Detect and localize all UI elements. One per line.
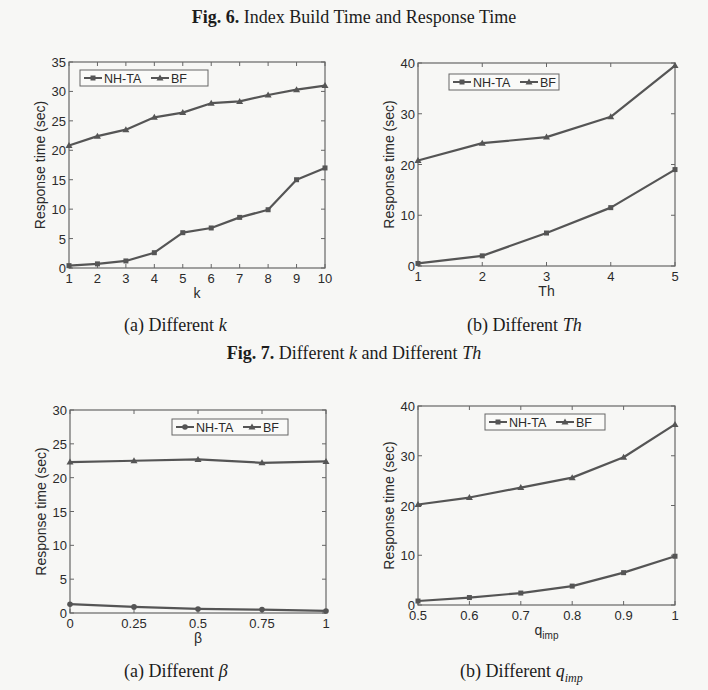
circle-marker-icon <box>195 606 201 612</box>
square-marker-icon <box>266 207 271 212</box>
square-marker-icon <box>180 230 185 235</box>
chart-different-beta: 05101520253000.250.50.751βResponse time … <box>33 403 330 646</box>
x-tick-label: 4 <box>607 269 614 284</box>
square-marker-icon <box>480 253 485 258</box>
series-line-bf <box>69 86 325 146</box>
x-axis-label: qimp <box>535 622 559 641</box>
legend-entry-label: NH-TA <box>196 421 234 435</box>
chart-legend: NH-TABF <box>449 74 559 90</box>
y-axis-label: Response time (sec) <box>32 101 48 229</box>
legend-entry-label: NH-TA <box>473 76 511 90</box>
x-tick-label: 0.6 <box>460 608 478 623</box>
x-tick-label: 0.9 <box>615 608 633 623</box>
chart-legend: NH-TABF <box>172 419 288 435</box>
square-marker-icon <box>152 250 157 255</box>
chart-legend: NH-TABF <box>485 414 605 430</box>
subcaption-text: (b) Different <box>460 661 556 681</box>
circle-marker-icon <box>259 607 265 613</box>
y-tick-label: 10 <box>53 538 67 553</box>
fig7-title-part: Different <box>279 343 349 363</box>
legend-entry-label: BF <box>540 76 556 90</box>
x-tick-label: 10 <box>318 271 332 286</box>
legend-entry-label: NH-TA <box>104 72 142 86</box>
series-line-bf <box>418 424 675 504</box>
square-marker-icon <box>67 263 72 268</box>
plot-area-frame <box>418 406 675 605</box>
y-tick-label: 40 <box>401 399 415 414</box>
y-tick-label: 5 <box>60 572 67 587</box>
circle-marker-icon <box>182 424 188 430</box>
x-tick-label: 6 <box>208 271 215 286</box>
legend-entry-label: NH-TA <box>509 416 547 430</box>
fig7-title-var-th: Th <box>462 343 481 363</box>
x-tick-label: 0.7 <box>512 608 530 623</box>
x-tick-label: 7 <box>236 271 243 286</box>
x-tick-label: 5 <box>671 269 678 284</box>
series-line-nh-ta <box>69 168 325 266</box>
y-tick-label: 25 <box>53 437 67 452</box>
square-marker-icon <box>496 420 501 425</box>
x-tick-label: 0.75 <box>249 616 274 631</box>
x-axis-label: β <box>194 630 202 646</box>
x-tick-label: 2 <box>479 269 486 284</box>
chart-different-qimp: 0102030400.50.60.70.80.91qimpResponse ti… <box>381 399 679 641</box>
square-marker-icon <box>323 165 328 170</box>
y-tick-label: 30 <box>52 84 66 99</box>
plot-area-frame <box>70 410 326 613</box>
subcaption-var: Th <box>563 315 582 335</box>
fig7-label: Fig. 7. <box>227 343 275 363</box>
chart-different-th: 01020304012345ThResponse time (sec)NH-TA… <box>381 56 679 299</box>
legend-entry-label: BF <box>263 421 279 435</box>
subcaption-text: (b) Different <box>467 315 563 335</box>
fig8-subcaption-a: (a) Different β <box>124 661 228 682</box>
square-marker-icon <box>570 584 575 589</box>
fig7-subcaption-a: (a) Different k <box>124 315 227 336</box>
square-marker-icon <box>621 570 626 575</box>
legend-entry-label: BF <box>171 72 187 86</box>
x-tick-label: 4 <box>151 271 158 286</box>
x-tick-label: 0.5 <box>409 608 427 623</box>
chart-different-k: 0510152025303512345678910kResponse time … <box>32 55 332 301</box>
x-tick-label: 1 <box>322 616 329 631</box>
x-tick-label: 2 <box>94 271 101 286</box>
x-tick-label: 0.8 <box>563 608 581 623</box>
square-marker-icon <box>123 258 128 263</box>
fig7-caption: Fig. 7. Different k and Different Th <box>0 343 708 364</box>
x-tick-label: 0.25 <box>121 616 146 631</box>
subcaption-subscript: imp <box>565 671 583 685</box>
x-tick-label: 1 <box>671 608 678 623</box>
square-marker-icon <box>237 215 242 220</box>
square-marker-icon <box>467 595 472 600</box>
y-tick-label: 40 <box>401 56 415 71</box>
fig7-subcaption-b: (b) Different Th <box>467 315 582 336</box>
series-line-nh-ta <box>418 170 675 264</box>
y-tick-label: 10 <box>401 548 415 563</box>
y-tick-label: 35 <box>52 55 66 70</box>
x-axis-label: k <box>194 285 202 301</box>
square-marker-icon <box>416 599 421 604</box>
subcaption-var: k <box>219 315 227 335</box>
y-tick-label: 5 <box>59 232 66 247</box>
square-marker-icon <box>294 177 299 182</box>
y-tick-label: 10 <box>401 208 415 223</box>
series-line-nh-ta <box>418 556 675 601</box>
x-tick-label: 0 <box>66 616 73 631</box>
y-axis-label: Response time (sec) <box>33 447 49 575</box>
y-tick-label: 20 <box>401 499 415 514</box>
y-tick-label: 30 <box>53 403 67 418</box>
square-marker-icon <box>518 591 523 596</box>
square-marker-icon <box>91 76 96 81</box>
plot-area-frame <box>418 63 675 266</box>
square-marker-icon <box>673 554 678 559</box>
y-tick-label: 30 <box>401 107 415 122</box>
subcaption-text: (a) Different <box>124 315 219 335</box>
x-tick-label: 1 <box>414 269 421 284</box>
square-marker-icon <box>209 225 214 230</box>
y-tick-label: 25 <box>52 114 66 129</box>
plot-area-frame <box>69 62 325 268</box>
circle-marker-icon <box>323 608 329 614</box>
chart-legend: NH-TABF <box>80 70 208 86</box>
subcaption-var: q <box>556 661 565 681</box>
x-tick-label: 0.5 <box>189 616 207 631</box>
y-axis-label: Response time (sec) <box>381 441 397 569</box>
